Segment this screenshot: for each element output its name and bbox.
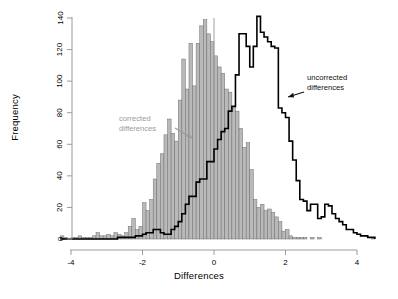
histogram-bar xyxy=(300,237,304,239)
histogram-bar xyxy=(168,119,172,239)
histogram-bar xyxy=(282,231,286,239)
histogram-bar xyxy=(257,207,261,239)
histogram-bar xyxy=(96,233,100,239)
x-axis: -4-2024 xyxy=(67,250,359,267)
x-tick-label: -4 xyxy=(67,258,75,267)
x-tick-label: 4 xyxy=(355,258,360,267)
y-tick-label: 40 xyxy=(56,171,65,180)
x-tick-label: 0 xyxy=(212,258,217,267)
histogram-bar xyxy=(243,147,247,239)
x-tick-label: 2 xyxy=(283,258,288,267)
histogram-bar xyxy=(296,237,300,239)
histogram-bar xyxy=(164,135,168,239)
y-tick-label: 60 xyxy=(56,139,65,148)
histogram-bar xyxy=(207,34,211,239)
histogram-bar xyxy=(278,222,282,239)
uncorrected-differences-line1: uncorrected xyxy=(307,73,347,82)
corrected-differences-line2: differences xyxy=(119,124,156,133)
histogram-bar xyxy=(221,73,225,239)
histogram-bar xyxy=(193,86,197,239)
y-axis-ticks: 020406080100120140 xyxy=(56,11,73,241)
histogram-bar xyxy=(286,230,290,239)
y-axis-label: Frequency xyxy=(9,58,20,178)
histogram-bar xyxy=(303,237,307,239)
histogram-bar xyxy=(139,226,143,239)
histogram-bar xyxy=(318,237,322,239)
x-tick-label: -2 xyxy=(139,258,147,267)
y-tick-label: 100 xyxy=(56,74,65,88)
histogram-bar xyxy=(171,133,175,239)
histogram-bar xyxy=(293,237,297,239)
histogram-bar xyxy=(268,209,272,239)
histogram-bar xyxy=(185,89,189,239)
y-tick-label: 140 xyxy=(56,11,65,25)
y-axis: 020406080100120140 xyxy=(56,11,73,241)
histogram-bar xyxy=(232,106,236,239)
histogram-bar xyxy=(203,20,207,239)
uncorrected-differences-line2: differences xyxy=(307,83,344,92)
histogram-bar xyxy=(218,67,222,239)
y-tick-label: 120 xyxy=(56,42,65,56)
histogram-figure: 020406080100120140 -4-2024 corrected dif… xyxy=(0,0,398,299)
histogram-bar xyxy=(311,237,315,239)
y-tick-label: 0 xyxy=(56,236,65,241)
histogram-bar xyxy=(246,143,250,239)
histogram-bar xyxy=(189,43,193,239)
plot-area: 020406080100120140 -4-2024 corrected dif… xyxy=(0,0,398,299)
histogram-bar xyxy=(239,129,243,240)
histogram-bar xyxy=(289,236,293,239)
annotation-uncorrected-differences: uncorrected differences xyxy=(288,73,347,98)
uncorrected-differences-arrow-head xyxy=(288,93,294,98)
histogram-bar xyxy=(275,217,279,239)
x-axis-label: Differences xyxy=(0,270,398,281)
histogram-bar xyxy=(157,163,161,239)
histogram-bar xyxy=(260,204,264,239)
histogram-bar xyxy=(250,170,254,239)
histogram-bar xyxy=(200,26,204,239)
histogram-bar xyxy=(235,111,239,239)
y-tick-label: 20 xyxy=(56,202,65,211)
histogram-bar xyxy=(196,43,200,239)
histogram-bar xyxy=(210,42,214,239)
y-tick-label: 80 xyxy=(56,108,65,117)
histogram-bar xyxy=(160,154,164,239)
x-axis-ticks: -4-2024 xyxy=(67,250,359,267)
histogram-bar xyxy=(271,212,275,239)
corrected-differences-line1: corrected xyxy=(119,114,151,123)
histogram-bar xyxy=(253,200,257,239)
histogram-bar xyxy=(264,211,268,239)
